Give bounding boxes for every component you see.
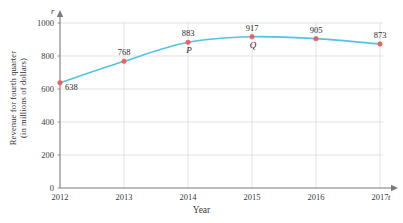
chart-figure: 02004006008001000 2012201320142015201620… <box>0 0 403 223</box>
data-value-labels-group: 638768883917905873 <box>65 23 386 92</box>
data-value-label: 883 <box>182 28 195 38</box>
data-value-label: 905 <box>310 25 323 35</box>
data-value-label: 917 <box>246 23 259 33</box>
x-tick-labels-group: 201220132014201520162017 <box>52 192 389 202</box>
point-annotation-q: Q <box>250 40 257 50</box>
data-point-marker <box>58 80 63 85</box>
gridlines-group <box>60 23 383 188</box>
x-axis-title: Year <box>0 205 403 215</box>
y-tick-label: 600 <box>41 84 54 94</box>
data-markers-group <box>58 34 383 85</box>
x-tick-label: 2017 <box>372 192 389 202</box>
data-point-marker <box>122 59 127 64</box>
revenue-line <box>60 37 380 83</box>
y-tick-label: 800 <box>41 51 54 61</box>
y-tick-label: 400 <box>41 117 54 127</box>
axis-variable-labels-group: rt <box>51 6 391 202</box>
line-chart-canvas: 02004006008001000 2012201320142015201620… <box>0 0 403 223</box>
data-value-label: 768 <box>118 47 131 57</box>
y-axis-title: Revenue for fourth quarter (in millions … <box>6 18 30 178</box>
y-axis-title-line1: Revenue for fourth quarter <box>8 51 19 145</box>
point-annotation-p: P <box>185 45 192 55</box>
y-tick-label: 200 <box>41 150 54 160</box>
x-axis-arrowhead <box>391 185 398 191</box>
x-tick-label: 2014 <box>180 192 198 202</box>
x-tick-label: 2016 <box>308 192 325 202</box>
y-axis-title-line2: (in millions of dollars) <box>18 58 29 138</box>
data-point-marker <box>378 42 383 47</box>
x-tick-label: 2012 <box>52 192 69 202</box>
data-value-label: 638 <box>65 82 78 92</box>
x-tick-label: 2015 <box>244 192 261 202</box>
y-axis-arrowhead <box>57 10 63 17</box>
data-series-group <box>60 37 380 83</box>
y-tick-labels-group: 02004006008001000 <box>37 18 60 193</box>
point-annotation-labels-group: PQ <box>185 40 257 56</box>
x-tick-label: 2013 <box>116 192 133 202</box>
data-point-marker <box>186 40 191 45</box>
y-axis-variable-label: r <box>51 6 55 16</box>
y-tick-label: 1000 <box>37 18 54 28</box>
data-value-label: 873 <box>374 30 387 40</box>
data-point-marker <box>314 36 319 41</box>
data-point-marker <box>250 34 255 39</box>
x-axis-variable-label: t <box>388 192 391 202</box>
